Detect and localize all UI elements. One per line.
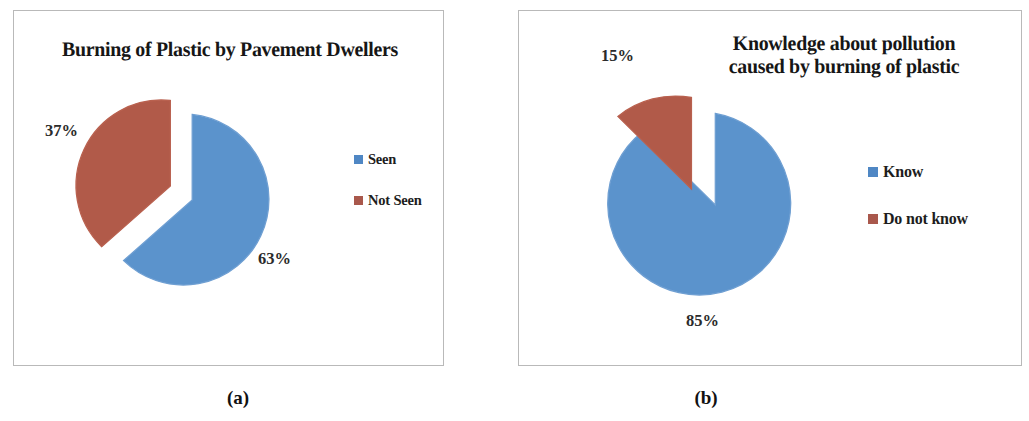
- legend-b: Know Do not know: [868, 163, 968, 228]
- legend-a: Seen Not Seen: [354, 151, 422, 209]
- legend-swatch-icon-do-not-know: [868, 214, 878, 224]
- legend-label-b-do-not-know: Do not know: [883, 210, 968, 228]
- pie-slice-a-not-seen: [76, 100, 170, 247]
- value-label-b-know: 85%: [686, 311, 719, 331]
- legend-item-a-not-seen[interactable]: Not Seen: [354, 192, 422, 209]
- value-label-a-seen: 63%: [258, 249, 291, 269]
- figure-caption-a: (a): [208, 387, 268, 409]
- legend-label-b-know: Know: [883, 163, 923, 181]
- pie-slice-b-know: [608, 113, 791, 295]
- legend-swatch-icon-seen: [354, 155, 363, 164]
- legend-item-a-seen[interactable]: Seen: [354, 151, 422, 168]
- legend-swatch-icon-not-seen: [354, 196, 363, 205]
- chart-panel-a: Burning of Plastic by Pavement Dwellers …: [13, 10, 444, 366]
- figure-two-pie-charts: Burning of Plastic by Pavement Dwellers …: [0, 0, 1029, 421]
- legend-item-b-know[interactable]: Know: [868, 163, 968, 181]
- legend-swatch-icon-know: [868, 167, 878, 177]
- value-label-a-not-seen: 37%: [45, 121, 78, 141]
- chart-panel-b: Knowledge about pollution caused by burn…: [518, 10, 1022, 366]
- legend-label-a-seen: Seen: [368, 151, 396, 168]
- value-label-b-do-not-know: 15%: [601, 46, 634, 66]
- figure-caption-b: (b): [676, 387, 736, 409]
- legend-label-a-not-seen: Not Seen: [368, 192, 422, 209]
- legend-item-b-do-not-know[interactable]: Do not know: [868, 210, 968, 228]
